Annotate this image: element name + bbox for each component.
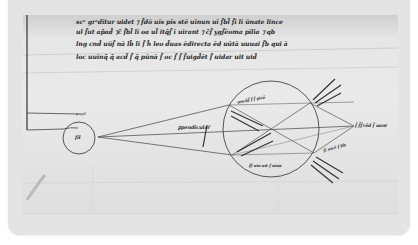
manuscript-image: scᵉ grᵉdītur uidet ⁊ f̄dō uīs pīs stē uī… bbox=[23, 15, 398, 215]
convergence-label: ſ̄ ſ̄ſ̄ꝛ ēd ſ̄ uant bbox=[355, 122, 387, 128]
lower-circle-label: ſ̄ſ̄ uīn uīt ſ̄ uīna bbox=[249, 163, 282, 168]
manuscript-text-line-4: loc uuīnq̄ q̄ acd̄ ſ̄ q̄ pūnā ſ̄ oc ſ̄ ſ… bbox=[76, 53, 257, 60]
manuscript-text-line-3: lng cnd̄ uūſ̄ nā lb̄ lī ſ̄ h̄ leo d̄uas … bbox=[76, 40, 288, 47]
eye-label: ſil bbox=[75, 134, 81, 140]
center-ray-label: ꝑpendicular̄ bbox=[178, 124, 210, 130]
pupil-label: pupil bbox=[76, 111, 86, 116]
manuscript-text-line-1: scᵉ grᵉdītur uidet ⁊ f̄dō uīs pīs stē uī… bbox=[76, 18, 283, 25]
manuscript-text-line-2: ul ſ̄ut ap̄ad̄ ⁊c̄ ſ̄bl̄ lī oa ul̄ itq̄ſ… bbox=[76, 28, 275, 35]
